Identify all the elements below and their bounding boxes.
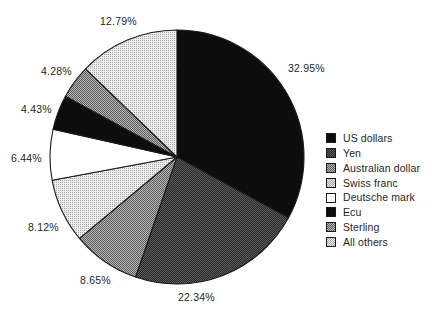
pie-slice-value-label: 4.43%	[21, 104, 52, 115]
pie-slice-value-label: 8.12%	[28, 222, 59, 233]
pie-slice-value-label: 6.44%	[11, 153, 42, 164]
pie-slice-value-label: 8.65%	[80, 275, 111, 286]
legend-swatch-icon	[326, 222, 336, 232]
legend-item-label: Swiss franc	[343, 178, 398, 189]
legend-item[interactable]: Deutsche mark	[326, 190, 429, 205]
legend-item[interactable]: Sterling	[326, 220, 429, 235]
pie-slice-value-label: 32.95%	[288, 63, 325, 74]
pie-slice-value-label: 4.28%	[41, 66, 72, 77]
pie-slices-group	[50, 30, 304, 284]
legend-swatch-icon	[326, 207, 336, 217]
legend-item-label: Australian dollar	[343, 163, 420, 174]
legend-item[interactable]: US dollars	[326, 131, 429, 146]
legend-item-label: All others	[343, 237, 388, 248]
pie-slice-value-label: 12.79%	[100, 16, 137, 27]
legend-item[interactable]: Yen	[326, 146, 429, 161]
legend-item-label: Deutsche mark	[343, 192, 415, 203]
legend-swatch-icon	[326, 133, 336, 143]
pie-chart-figure: 32.95%22.34%8.65%8.12%6.44%4.43%4.28%12.…	[0, 0, 429, 319]
legend-item[interactable]: Ecu	[326, 205, 429, 220]
legend-item-label: Yen	[343, 148, 361, 159]
legend-swatch-icon	[326, 148, 336, 158]
legend-swatch-icon	[326, 193, 336, 203]
legend-item-label: Sterling	[343, 222, 379, 233]
legend-item[interactable]: Swiss franc	[326, 175, 429, 190]
legend-swatch-icon	[326, 178, 336, 188]
legend-item-label: US dollars	[343, 133, 392, 144]
chart-legend: US dollarsYenAustralian dollarSwiss fran…	[326, 131, 429, 249]
legend-item[interactable]: Australian dollar	[326, 161, 429, 176]
pie-slice-value-label: 22.34%	[178, 292, 215, 303]
legend-swatch-icon	[326, 163, 336, 173]
legend-item[interactable]: All others	[326, 235, 429, 250]
legend-item-label: Ecu	[343, 207, 361, 218]
legend-swatch-icon	[326, 237, 336, 247]
